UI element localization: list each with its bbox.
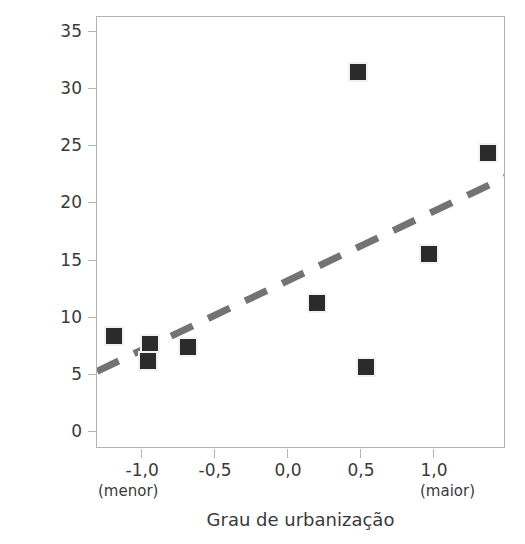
y-axis-tick-label: 20 (0, 192, 82, 213)
plot-area (97, 17, 504, 447)
x-axis-endnote-left: (menor) (98, 482, 158, 501)
x-axis-tick-label: 1,0 (389, 460, 479, 481)
plot-frame (96, 16, 505, 448)
y-axis-tick-label: 15 (0, 250, 82, 271)
y-axis-tick-mark (88, 374, 97, 375)
x-axis-endnote-right: (maior) (420, 482, 475, 501)
y-axis-tick-mark (88, 260, 97, 261)
x-axis-tick-mark (360, 449, 361, 458)
x-axis-tick-mark (214, 449, 215, 458)
x-axis-tick-mark (433, 449, 434, 458)
trend-line (97, 17, 504, 447)
data-point (419, 244, 439, 264)
y-axis-tick-label: 30 (0, 78, 82, 99)
y-axis-tick-mark (88, 202, 97, 203)
y-axis-tick-label: 25 (0, 135, 82, 156)
y-axis-tick-mark (88, 88, 97, 89)
y-axis-tick-mark (88, 317, 97, 318)
y-axis-tick-label: 10 (0, 307, 82, 328)
scatter-plot-figure: 05101520253035 Percentual de aves com an… (0, 0, 525, 544)
data-point (307, 293, 327, 313)
y-axis-tick-label: 35 (0, 21, 82, 42)
data-point (478, 143, 498, 163)
y-axis-tick-label: 0 (0, 421, 82, 442)
y-axis-tick-label: 5 (0, 364, 82, 385)
y-axis-tick-mark (88, 31, 97, 32)
data-point (104, 326, 124, 346)
y-axis-tick-mark (88, 431, 97, 432)
x-axis-tick-mark (287, 449, 288, 458)
data-point (178, 337, 198, 357)
y-axis-tick-mark (88, 145, 97, 146)
data-point (356, 357, 376, 377)
x-axis-tick-mark (141, 449, 142, 458)
data-point (138, 351, 158, 371)
x-axis-title: Grau de urbanização (96, 508, 505, 532)
data-point (348, 62, 368, 82)
